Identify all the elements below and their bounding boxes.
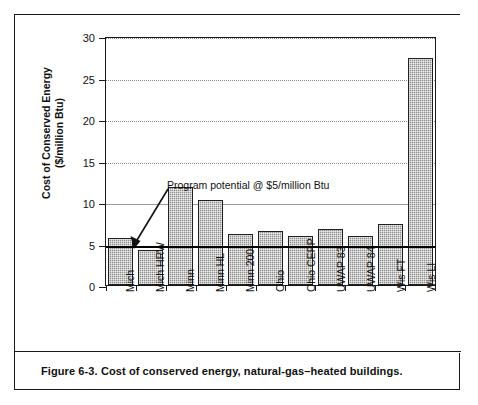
x-label-slot: Ohio bbox=[257, 292, 283, 350]
x-label-slot: Wis FT bbox=[378, 292, 404, 350]
y-tick-label: 15 bbox=[65, 157, 95, 169]
x-axis-tick-label: Minn HL bbox=[214, 253, 226, 292]
x-label-slot: UWAP 83 bbox=[318, 292, 344, 350]
y-tick bbox=[99, 163, 106, 164]
x-axis-tick-label: Wis FT bbox=[395, 259, 407, 292]
bar-slot bbox=[198, 38, 224, 285]
x-label-slot: Minn 200 bbox=[227, 292, 253, 350]
y-tick-label: 20 bbox=[65, 115, 95, 127]
figure-caption: Figure 6-3. Cost of conserved energy, na… bbox=[15, 365, 403, 377]
x-axis-tick-label: Minn bbox=[184, 269, 196, 292]
y-tick bbox=[99, 287, 106, 288]
y-tick-label: 0 bbox=[65, 281, 95, 293]
y-axis-title-line1: Cost of Conserved Energy bbox=[40, 33, 53, 233]
y-tick-label: 10 bbox=[65, 198, 95, 210]
x-tick bbox=[106, 285, 107, 291]
x-label-slot: Mich HRW bbox=[137, 292, 163, 350]
x-axis-tick-label: Mich bbox=[124, 270, 136, 292]
x-axis-tick-label: UWAP 83 bbox=[335, 246, 347, 292]
x-axis-labels: MichMich HRWMinnMinn HLMinn 200OhioOhio … bbox=[105, 292, 436, 350]
figure-frame: Cost of Conserved Energy ($/million Btu)… bbox=[14, 14, 460, 390]
y-tick bbox=[99, 246, 106, 247]
x-tick bbox=[136, 285, 137, 291]
x-label-slot: Minn bbox=[167, 292, 193, 350]
threshold-line bbox=[106, 246, 435, 248]
x-axis-tick-label: Wis LI bbox=[425, 263, 437, 292]
bar-slot bbox=[377, 38, 403, 285]
x-axis-tick-label: UWAP 84 bbox=[365, 246, 377, 292]
bar-slot bbox=[257, 38, 283, 285]
bar-slot bbox=[407, 38, 433, 285]
caption-band: Figure 6-3. Cost of conserved energy, na… bbox=[15, 351, 461, 389]
y-tick bbox=[99, 204, 106, 205]
bar[interactable] bbox=[408, 58, 433, 285]
chart-area: Cost of Conserved Energy ($/million Btu)… bbox=[15, 15, 461, 353]
x-label-slot: Wis LI bbox=[408, 292, 434, 350]
y-tick bbox=[99, 38, 106, 39]
x-axis-tick-label: Ohio bbox=[274, 270, 286, 292]
y-tick-label: 25 bbox=[65, 74, 95, 86]
x-axis-tick-label: Minn 200 bbox=[244, 249, 256, 292]
y-tick bbox=[99, 80, 106, 81]
y-axis-title: Cost of Conserved Energy ($/million Btu) bbox=[40, 33, 66, 233]
threshold-annotation-text: Program potential @ $5/million Btu bbox=[167, 179, 329, 191]
y-tick bbox=[99, 121, 106, 122]
x-label-slot: Minn HL bbox=[197, 292, 223, 350]
y-tick-label: 30 bbox=[65, 32, 95, 44]
x-label-slot: Ohio CEPP bbox=[288, 292, 314, 350]
y-tick-label: 5 bbox=[65, 240, 95, 252]
annotation-arrow-icon bbox=[121, 187, 181, 259]
x-label-slot: Mich bbox=[107, 292, 133, 350]
x-label-slot: UWAP 84 bbox=[348, 292, 374, 350]
